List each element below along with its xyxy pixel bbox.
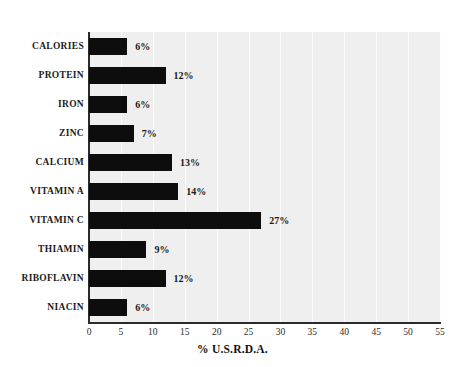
bar bbox=[89, 183, 178, 200]
bar-value-label: 14% bbox=[186, 177, 206, 206]
category-label: THIAMIN bbox=[0, 235, 84, 264]
bar bbox=[89, 67, 166, 84]
x-tick-label: 25 bbox=[234, 327, 264, 337]
bar-row: NIACIN6% bbox=[0, 293, 465, 322]
category-label: VITAMIN C bbox=[0, 206, 84, 235]
bar-value-label: 13% bbox=[180, 148, 200, 177]
bar-value-label: 12% bbox=[174, 61, 194, 90]
bar-row: PROTEIN12% bbox=[0, 61, 465, 90]
bar-value-label: 27% bbox=[269, 206, 289, 235]
x-tick-label: 35 bbox=[297, 327, 327, 337]
bar-row: CALORIES6% bbox=[0, 32, 465, 61]
bar bbox=[89, 241, 146, 258]
bar bbox=[89, 270, 166, 287]
x-tick-label: 55 bbox=[425, 327, 455, 337]
category-label: NIACIN bbox=[0, 293, 84, 322]
bar-row: CALCIUM13% bbox=[0, 148, 465, 177]
bar-value-label: 9% bbox=[154, 235, 169, 264]
bar-value-label: 6% bbox=[135, 32, 150, 61]
bar bbox=[89, 299, 127, 316]
x-tick-label: 10 bbox=[138, 327, 168, 337]
category-label: ZINC bbox=[0, 119, 84, 148]
bar-row: VITAMIN A14% bbox=[0, 177, 465, 206]
bar-row: THIAMIN9% bbox=[0, 235, 465, 264]
bar-row: ZINC7% bbox=[0, 119, 465, 148]
category-label: RIBOFLAVIN bbox=[0, 264, 84, 293]
x-tick-label: 20 bbox=[202, 327, 232, 337]
category-label: IRON bbox=[0, 90, 84, 119]
bar bbox=[89, 96, 127, 113]
bar bbox=[89, 212, 261, 229]
bar bbox=[89, 125, 134, 142]
x-tick-label: 5 bbox=[106, 327, 136, 337]
bar-value-label: 7% bbox=[142, 119, 157, 148]
bar bbox=[89, 154, 172, 171]
x-tick-label: 40 bbox=[329, 327, 359, 337]
category-label: CALCIUM bbox=[0, 148, 84, 177]
category-label: PROTEIN bbox=[0, 61, 84, 90]
bar-value-label: 6% bbox=[135, 293, 150, 322]
x-tick-label: 30 bbox=[265, 327, 295, 337]
bar-value-label: 6% bbox=[135, 90, 150, 119]
x-tick-label: 15 bbox=[170, 327, 200, 337]
bar-value-label: 12% bbox=[174, 264, 194, 293]
chart-figure: CALORIES6%PROTEIN12%IRON6%ZINC7%CALCIUM1… bbox=[0, 0, 465, 367]
x-tick-label: 0 bbox=[74, 327, 104, 337]
x-axis-line bbox=[88, 322, 441, 324]
category-label: CALORIES bbox=[0, 32, 84, 61]
bar-row: RIBOFLAVIN12% bbox=[0, 264, 465, 293]
bar-row: IRON6% bbox=[0, 90, 465, 119]
bar-row: VITAMIN C27% bbox=[0, 206, 465, 235]
x-tick-label: 45 bbox=[361, 327, 391, 337]
x-tick-label: 50 bbox=[393, 327, 423, 337]
category-label: VITAMIN A bbox=[0, 177, 84, 206]
x-axis-title: % U.S.R.D.A. bbox=[0, 343, 465, 355]
bar bbox=[89, 38, 127, 55]
